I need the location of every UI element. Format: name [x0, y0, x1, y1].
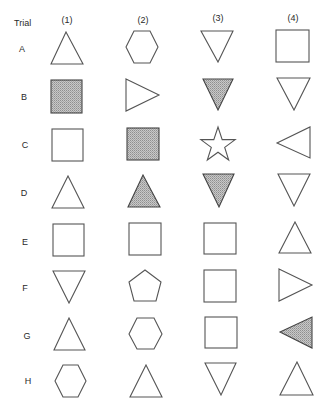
shaded-triangle-down-icon: [203, 79, 233, 110]
square-icon: [276, 30, 309, 62]
square-icon: [52, 129, 83, 161]
triangle-down-icon: [53, 271, 85, 303]
shaded-triangle-left-icon: [280, 317, 312, 348]
square-icon: [204, 223, 236, 254]
triangle-left-icon: [277, 127, 310, 158]
triangle-down-icon: [278, 174, 310, 206]
shaded-triangle-up-icon: [128, 175, 160, 207]
shaded-triangle-down-icon: [203, 174, 234, 207]
triangle-up-icon: [51, 32, 83, 64]
triangle-up-icon: [279, 222, 311, 253]
triangle-up-icon: [52, 176, 84, 208]
pentagon-icon: [129, 270, 161, 301]
square-icon: [53, 224, 84, 256]
square-icon: [205, 317, 237, 348]
triangle-right-icon: [279, 269, 312, 301]
shaded-square-icon: [127, 128, 159, 160]
star-icon: [201, 127, 235, 160]
hexagon-icon: [55, 365, 86, 397]
triangle-up-icon: [280, 362, 313, 395]
triangle-down-icon: [201, 31, 233, 62]
square-icon: [204, 270, 236, 302]
triangle-down-icon: [277, 78, 310, 110]
triangle-down-icon: [205, 363, 236, 395]
triangle-right-icon: [126, 79, 159, 111]
hexagon-icon: [129, 318, 162, 349]
shaded-square-icon: [51, 80, 82, 113]
hexagon-icon: [126, 31, 158, 63]
square-icon: [129, 223, 161, 255]
stimulus-grid: [0, 0, 327, 414]
triangle-up-icon: [54, 318, 85, 350]
triangle-up-icon: [130, 365, 162, 397]
